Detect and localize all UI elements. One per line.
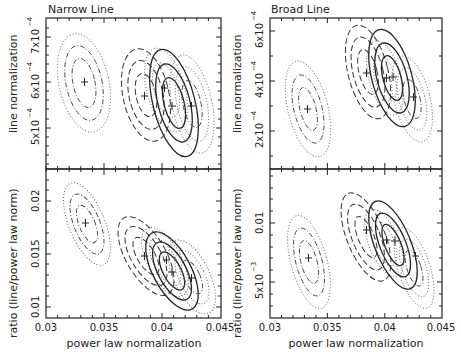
bottom-right-y-tick-labels: 0.01 5x10 −3	[250, 212, 265, 299]
svg-text:0.04: 0.04	[374, 322, 396, 333]
top-right-plot-frame	[270, 18, 442, 169]
svg-text:0.035: 0.035	[90, 322, 119, 333]
svg-text:0.015: 0.015	[30, 239, 41, 268]
bottom-left-y-tick-labels: 0.02 0.015 0.01	[30, 190, 41, 318]
top-right-y-axis-label: line normalization	[231, 34, 244, 133]
top-left-contours	[49, 29, 222, 162]
broad-line-panel: Broad Line 2x10 −4 4x10 −4 6x10 −4 line …	[231, 3, 455, 350]
svg-text:−3: −3	[250, 262, 258, 272]
top-right-y-ticks	[270, 31, 442, 156]
narrow-line-title: Narrow Line	[48, 3, 114, 16]
bottom-right-plot-frame	[270, 169, 442, 318]
narrow-line-panel: Narrow Line 5x10 −4 6x10 −4 7x10 −4 line…	[7, 3, 234, 350]
ytick-5e-4: 5x10	[30, 120, 41, 145]
ytick-7e-4: 7x10	[30, 29, 41, 54]
best-fit-marker	[81, 78, 88, 86]
svg-text:0.03: 0.03	[259, 322, 281, 333]
svg-text:0.035: 0.035	[313, 322, 342, 333]
left-x-axis-label: power law normalization	[67, 337, 202, 350]
right-x-axis-label: power law normalization	[289, 337, 424, 350]
svg-text:0.01: 0.01	[30, 296, 41, 318]
top-left-y-tick-labels: 5x10 −4 6x10 −4 7x10 −4	[26, 16, 41, 145]
svg-text:5x10: 5x10	[254, 274, 265, 299]
bottom-left-y-axis-label: ratio (line/power law norm)	[7, 188, 20, 338]
bottom-right-y-ticks	[270, 176, 442, 306]
top-right-contours	[277, 21, 440, 162]
top-left-y-axis-label: line normalization	[7, 34, 20, 133]
svg-text:4x10: 4x10	[254, 73, 265, 98]
broad-line-title: Broad Line	[271, 3, 330, 16]
svg-text:0.02: 0.02	[30, 190, 41, 212]
bottom-left-y-ticks	[46, 180, 221, 307]
svg-text:−4: −4	[26, 107, 34, 118]
top-left-y-ticks	[46, 28, 221, 164]
bottom-right-y-axis-label: ratio (line/power law norm)	[231, 188, 244, 338]
left-x-ticks	[46, 18, 208, 318]
right-x-tick-labels: 0.03 0.035 0.04 0.045	[259, 322, 455, 333]
svg-text:0.04: 0.04	[151, 322, 173, 333]
left-x-tick-labels: 0.03 0.035 0.04 0.045	[35, 322, 234, 333]
contour-figure: .frame { fill:none; stroke:#222; stroke-…	[0, 0, 461, 352]
svg-text:−4: −4	[250, 60, 258, 71]
svg-text:−4: −4	[26, 61, 34, 72]
top-right-y-tick-labels: 2x10 −4 4x10 −4 6x10 −4	[250, 10, 265, 148]
svg-text:−4: −4	[250, 10, 258, 21]
svg-text:6x10: 6x10	[254, 23, 265, 48]
bottom-left-contours	[54, 176, 225, 320]
bottom-right-contours	[279, 186, 442, 313]
svg-text:0.045: 0.045	[427, 322, 456, 333]
svg-text:2x10: 2x10	[254, 123, 265, 148]
ytick-6e-4: 6x10	[30, 74, 41, 99]
top-left-plot-frame	[46, 18, 221, 169]
svg-text:0.01: 0.01	[254, 212, 265, 234]
svg-text:0.03: 0.03	[35, 322, 57, 333]
svg-text:−4: −4	[250, 110, 258, 121]
svg-text:−4: −4	[26, 16, 34, 27]
bottom-left-plot-frame	[46, 169, 221, 318]
